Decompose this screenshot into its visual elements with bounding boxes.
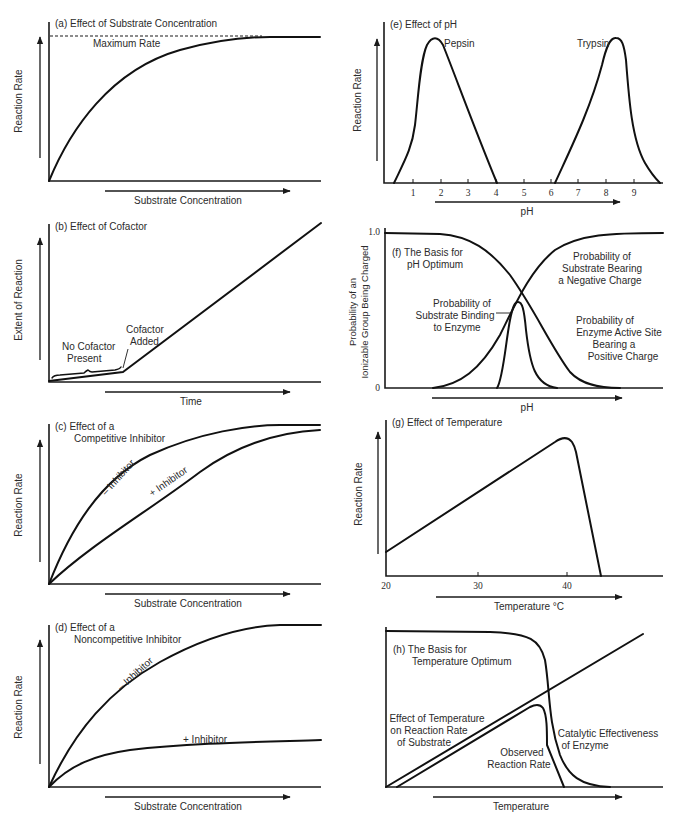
panel-f-ylabel-line2: Ionizable Group Being Charged [359, 245, 370, 378]
panel-f-substrate-label-1: Probability of [573, 251, 631, 262]
panel-h-enzyme-label-2: of Enzyme [561, 740, 609, 751]
panel-e-xtick-1: 1 [411, 188, 416, 198]
panel-h-title-line2: Temperature Optimum [412, 656, 511, 667]
panel-c-title-line2: Competitive Inhibitor [74, 433, 166, 444]
panel-b-title: (b) Effect of Cofactor [55, 221, 148, 232]
panel-c-minus-inhibitor-label: – Inhibitor [99, 457, 137, 497]
panel-h-title-line1: (h) The Basis for [393, 644, 467, 655]
enzyme-kinetics-figure: Reaction Rate Substrate Concentration (a… [0, 0, 674, 825]
panel-f-ytick-top: 1.0 [368, 227, 380, 237]
panel-a-ylabel: Reaction Rate [13, 69, 24, 133]
panel-e-pepsin-label: Pepsin [444, 38, 475, 49]
panel-f-binding-label-1: Probability of [433, 298, 491, 309]
panel-f-xlabel: pH [521, 402, 534, 413]
panel-b-xlabel: Time [180, 396, 202, 407]
panel-e-xtick-6: 6 [549, 188, 554, 198]
panel-h-enzyme-label-1: Catalytic Effectiveness [558, 728, 658, 739]
panel-b-added-pointer [123, 349, 128, 368]
panel-f-substrate-label-2: Substrate Bearing [562, 263, 642, 274]
panel-g-xtick-40: 40 [562, 581, 572, 591]
panel-a-axes [49, 22, 321, 181]
panel-h-observed-label-2: Reaction Rate [487, 759, 551, 770]
panel-h-xlabel: Temperature [493, 801, 550, 812]
panel-f-enzyme-label-1: Probability of [576, 315, 634, 326]
panel-f-title-line1: (f) The Basis for [392, 247, 464, 258]
panel-g-ylabel: Reaction Rate [353, 462, 364, 526]
panel-b-cofactor: Extent of Reaction Time (b) Effect of Co… [13, 221, 321, 407]
panel-f-enzyme-label-3: Bearing a [593, 339, 636, 350]
panel-e-xtick-8: 8 [604, 188, 609, 198]
panel-h-substrate-label-1: Effect of Temperature [389, 713, 485, 724]
panel-f-binding-label-3: to Enzyme [433, 322, 481, 333]
panel-d-title-line2: Noncompetitive Inhibitor [74, 634, 182, 645]
panel-g-temperature: Reaction Rate 20 30 40 Temperature °C (g… [353, 417, 663, 612]
panel-a-max-rate-label: Maximum Rate [93, 38, 161, 49]
panel-g-xlabel: Temperature °C [494, 601, 564, 612]
panel-e-xtick-4: 4 [494, 188, 499, 198]
panel-d-plus-inhibitor-label: + Inhibitor [183, 734, 228, 745]
panel-f-ylabel-line1: Probability of an [347, 278, 358, 346]
panel-d-title-line1: (d) Effect of a [55, 622, 115, 633]
panel-g-xtick-20: 20 [381, 581, 391, 591]
panel-f-substrate-label-3: a Negative Charge [558, 275, 642, 286]
panel-d-minus-inhibitor-label: – Inhibitor [115, 654, 155, 692]
panel-a-curve [49, 37, 320, 181]
panel-c-axes [49, 424, 321, 584]
panel-c-curve-minus-inhibitor [49, 425, 320, 584]
panel-c-ylabel: Reaction Rate [13, 473, 24, 537]
panel-d-ylabel: Reaction Rate [13, 675, 24, 739]
panel-a-xlabel: Substrate Concentration [134, 195, 242, 206]
panel-h-substrate-label-3: of Substrate [397, 737, 451, 748]
panel-h-temperature-optimum: Temperature (h) The Basis for Temperatur… [386, 627, 663, 812]
panel-c-plus-inhibitor-label: + Inhibitor [147, 464, 190, 499]
panel-b-no-cofactor-line1: No Cofactor [62, 341, 116, 352]
panel-d-xlabel: Substrate Concentration [134, 801, 242, 812]
panel-f-ph-optimum: 1.0 0 Probability of an Ionizable Group … [347, 227, 663, 413]
panel-e-title: (e) Effect of pH [390, 19, 457, 30]
panel-e-pepsin-curve [394, 38, 497, 183]
panel-c-competitive-inhibitor: Reaction Rate Substrate Concentration (c… [13, 421, 321, 609]
panel-e-ylabel: Reaction Rate [352, 68, 363, 132]
panel-e-xtick-7: 7 [576, 188, 581, 198]
panel-c-xlabel: Substrate Concentration [134, 598, 242, 609]
panel-b-ylabel: Extent of Reaction [13, 259, 24, 341]
panel-b-cofactor-added-line1: Cofactor [126, 324, 164, 335]
panel-g-axes [386, 420, 663, 576]
panel-e-xtick-3: 3 [466, 188, 471, 198]
panel-g-curve [386, 438, 601, 576]
panel-d-curve-minus-inhibitor [49, 625, 321, 787]
panel-h-observed-label-1: Observed [500, 747, 543, 758]
panel-e-trypsin-label: Trypsin [577, 38, 609, 49]
panel-f-title-line2: pH Optimum [407, 259, 463, 270]
panel-e-xlabel: pH [521, 206, 534, 217]
panel-a-substrate-concentration: Reaction Rate Substrate Concentration (a… [13, 18, 321, 206]
panel-b-no-cofactor-line2: Present [67, 353, 102, 364]
panel-e-xtick-9: 9 [632, 188, 637, 198]
panel-g-xtick-30: 30 [473, 581, 483, 591]
panel-c-title-line1: (c) Effect of a [55, 421, 115, 432]
panel-e-trypsin-curve [555, 38, 660, 183]
panel-f-binding-label-2: Substrate Binding [416, 310, 495, 321]
panel-d-noncompetitive-inhibitor: Reaction Rate Substrate Concentration (d… [13, 622, 321, 812]
panel-f-ytick-bottom: 0 [375, 383, 380, 393]
panel-e-xtick-5: 5 [522, 188, 527, 198]
panel-f-enzyme-label-4: Positive Charge [588, 351, 659, 362]
panel-g-title: (g) Effect of Temperature [392, 417, 503, 428]
panel-f-binding-curve [497, 302, 557, 388]
panel-a-title: (a) Effect of Substrate Concentration [55, 18, 217, 29]
panel-f-enzyme-label-2: Enzyme Active Site [576, 327, 662, 338]
panel-b-cofactor-added-line2: Added [130, 336, 159, 347]
panel-e-xtick-2: 2 [439, 188, 444, 198]
panel-e-ph: Reaction Rate 1 2 3 4 5 6 7 8 9 pH (e) E… [352, 19, 663, 217]
panel-d-curve-plus-inhibitor [49, 740, 321, 787]
panel-h-substrate-label-2: on Reaction Rate [390, 725, 468, 736]
